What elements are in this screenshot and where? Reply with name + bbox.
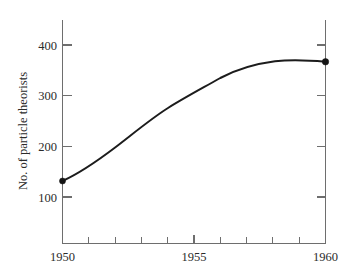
y-axis-ticks	[63, 45, 72, 197]
x-tick-label-1950: 1950	[50, 250, 75, 264]
y-axis-ticks-right	[317, 45, 326, 197]
y-tick-label-400: 400	[38, 39, 57, 53]
chart-figure: 400 300 200 100 1950 1955 1960 No. of pa…	[0, 0, 355, 278]
y-axis-title: No. of particle theorists	[16, 72, 30, 190]
data-point-marker-start	[60, 178, 66, 184]
data-point-marker-end	[322, 59, 328, 65]
line-chart: 400 300 200 100 1950 1955 1960 No. of pa…	[0, 0, 355, 278]
y-tick-label-200: 200	[38, 140, 57, 154]
y-tick-label-100: 100	[38, 191, 57, 205]
x-tick-label-1960: 1960	[313, 250, 338, 264]
data-line-particle-theorists	[63, 60, 326, 181]
y-tick-label-300: 300	[38, 89, 57, 103]
x-tick-label-1955: 1955	[182, 250, 207, 264]
